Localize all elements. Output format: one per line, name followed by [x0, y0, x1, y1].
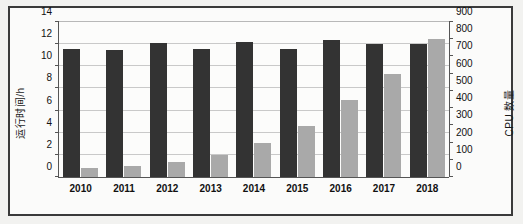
- y-axis-right-tick: [449, 55, 453, 56]
- y-axis-right-tick: [449, 159, 453, 160]
- bar-group: 2013: [189, 22, 232, 177]
- bar-group: 2011: [102, 22, 145, 177]
- y-axis-right-tick-label: 200: [456, 126, 473, 137]
- bar-cpu-count: [384, 74, 401, 177]
- chart-figure: 运行时间/h CPU 数量 02468101214 01002003004005…: [0, 0, 523, 224]
- y-axis-left-tick-label: 6: [46, 94, 52, 105]
- bar-group: 2018: [406, 22, 449, 177]
- bar-group: 2012: [146, 22, 189, 177]
- x-axis-tick-label: 2015: [276, 183, 319, 194]
- y-axis-left-tick-label: 12: [41, 28, 52, 39]
- x-axis-tick-label: 2016: [319, 183, 362, 194]
- bar-cpu-count: [211, 155, 228, 177]
- y-axis-right-tick: [449, 21, 453, 22]
- chart-plot-wrapper: 运行时间/h CPU 数量 02468101214 01002003004005…: [10, 8, 515, 218]
- y-axis-right-title: CPU 数量: [501, 58, 516, 168]
- y-axis-right-tick: [449, 176, 453, 177]
- y-axis-left-tick-label: 4: [46, 116, 52, 127]
- bar-group: 2016: [319, 22, 362, 177]
- x-axis-tick-label: 2017: [362, 183, 405, 194]
- bar-runtime: [63, 49, 80, 177]
- bar-runtime: [323, 40, 340, 177]
- y-axis-right-tick-label: 300: [456, 109, 473, 120]
- y-axis-left-tick-label: 2: [46, 138, 52, 149]
- x-axis-tick-label: 2011: [102, 183, 145, 194]
- y-axis-left-tick-label: 14: [41, 6, 52, 17]
- y-axis-right-tick: [449, 90, 453, 91]
- bar-group: 2015: [276, 22, 319, 177]
- x-axis-tick-label: 2014: [232, 183, 275, 194]
- bar-group: 2014: [232, 22, 275, 177]
- bar-runtime: [410, 44, 427, 177]
- bar-group: 2010: [59, 22, 102, 177]
- x-axis-tick-label: 2012: [146, 183, 189, 194]
- bar-runtime: [150, 43, 167, 177]
- bar-runtime: [280, 49, 297, 177]
- x-axis-tick-label: 2013: [189, 183, 232, 194]
- y-axis-right-tick-label: 100: [456, 143, 473, 154]
- bar-group: 2017: [362, 22, 405, 177]
- bar-cpu-count: [341, 100, 358, 178]
- bar-cpu-count: [254, 143, 271, 177]
- y-axis-right-tick-label: 0: [456, 161, 462, 172]
- y-axis-right-tick: [449, 73, 453, 74]
- y-axis-right-tick-label: 900: [456, 6, 473, 17]
- y-axis-right-tick-label: 600: [456, 57, 473, 68]
- y-axis-right-tick: [449, 107, 453, 108]
- y-axis-left-tick-label: 10: [41, 50, 52, 61]
- y-axis-right-tick: [449, 124, 453, 125]
- y-axis-right-tick-label: 500: [456, 74, 473, 85]
- y-axis-left-title: 运行时间/h: [12, 58, 27, 168]
- bar-cpu-count: [428, 39, 445, 177]
- bar-cpu-count: [124, 166, 141, 177]
- chart-frame: 运行时间/h CPU 数量 02468101214 01002003004005…: [8, 6, 513, 216]
- plot-area: 02468101214 0100200300400500600700800900…: [58, 22, 449, 178]
- bar-cpu-count: [81, 168, 98, 177]
- bar-runtime: [106, 50, 123, 177]
- x-axis-tick-label: 2010: [59, 183, 102, 194]
- y-axis-right-line: [449, 22, 450, 177]
- y-axis-left-tick-label: 8: [46, 72, 52, 83]
- y-axis-right-tick-label: 400: [456, 92, 473, 103]
- y-axis-right-tick: [449, 38, 453, 39]
- bar-cpu-count: [298, 126, 315, 177]
- bar-cpu-count: [168, 162, 185, 178]
- y-axis-right-tick-label: 800: [456, 23, 473, 34]
- bar-runtime: [193, 49, 210, 177]
- bar-runtime: [236, 42, 253, 177]
- y-axis-right-tick-label: 700: [456, 40, 473, 51]
- y-axis-right-tick: [449, 142, 453, 143]
- bar-runtime: [366, 44, 383, 177]
- x-axis-tick-label: 2018: [406, 183, 449, 194]
- y-axis-left-tick-label: 0: [46, 161, 52, 172]
